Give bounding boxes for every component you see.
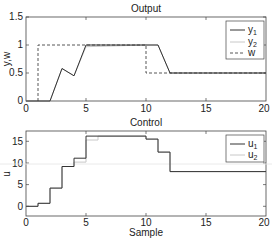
control-xtick-20: 20 (258, 217, 270, 228)
control-xtick-0: 0 (23, 217, 29, 228)
legend-w: w (247, 47, 256, 58)
control-ytick-5: 5 (17, 179, 23, 190)
output-xtick-15: 15 (200, 103, 212, 114)
control-plot: Control 0 5 10 15 0 5 10 15 20 Sample u (0, 117, 272, 238)
control-xtick-5: 5 (83, 217, 89, 228)
output-legend: y1 y2 w (226, 21, 264, 59)
control-xlabel: Sample (129, 227, 163, 238)
control-ytick-10: 10 (12, 158, 24, 169)
output-title: Output (131, 3, 161, 14)
control-ytick-0: 0 (17, 201, 23, 212)
output-ylabel: y,w (1, 51, 12, 66)
control-title: Control (130, 117, 162, 128)
output-xtick-20: 20 (258, 103, 270, 114)
output-ytick-0.5: 0.5 (9, 67, 23, 78)
output-xtick-10: 10 (140, 103, 152, 114)
output-xtick-0: 0 (23, 103, 29, 114)
figure: Output 0 0.5 1 1.5 0 5 10 15 20 y,w y1 (0, 0, 272, 240)
control-ylabel: u (1, 171, 12, 177)
output-xtick-5: 5 (83, 103, 89, 114)
control-xtick-15: 15 (200, 217, 212, 228)
control-ytick-15: 15 (12, 136, 24, 147)
output-ytick-1.5: 1.5 (9, 11, 23, 22)
output-plot: Output 0 0.5 1 1.5 0 5 10 15 20 y,w y1 (1, 3, 270, 114)
output-ytick-1: 1 (17, 39, 23, 50)
control-legend: u1 u2 (226, 135, 264, 162)
